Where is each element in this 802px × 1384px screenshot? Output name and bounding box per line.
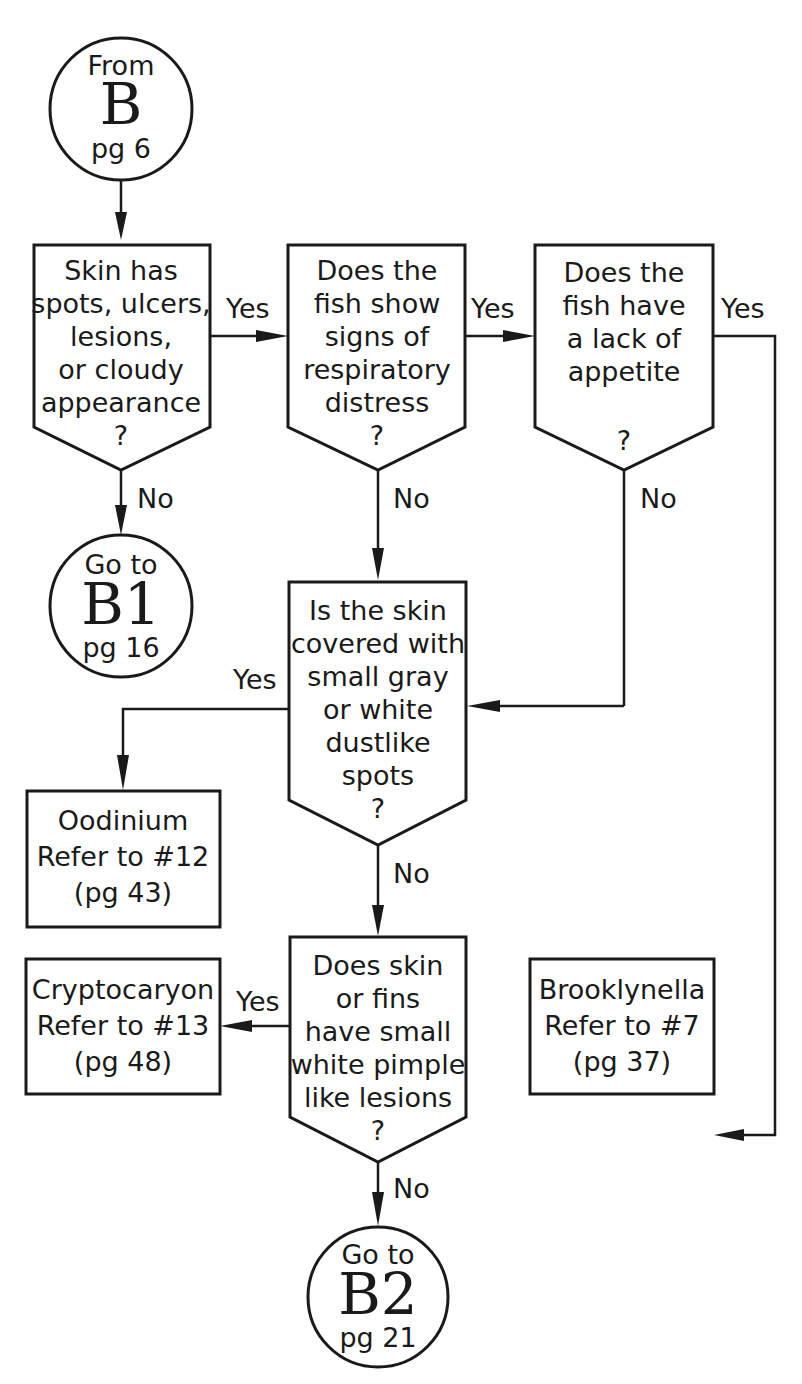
q2-yes-label: Yes: [470, 293, 515, 324]
q4-line: covered with: [291, 628, 465, 659]
q4-line: small gray: [307, 661, 448, 692]
q2-line: fish show: [314, 288, 441, 319]
arrow-left-icon: [467, 700, 500, 712]
start-code: B: [100, 70, 143, 138]
q4-line: Is the skin: [309, 595, 447, 626]
q5-no-label: No: [393, 1173, 430, 1204]
brooklynella-line: Refer to #7: [544, 1010, 699, 1041]
b2-page: pg 21: [339, 1322, 416, 1353]
cryptocaryon-line: Refer to #13: [37, 1010, 210, 1041]
arrow-down-icon: [372, 1192, 384, 1226]
q5-line: like lesions: [304, 1082, 452, 1113]
q1-yes-label: Yes: [225, 293, 270, 324]
arrow-down-icon: [117, 755, 129, 790]
q5-yes-label: Yes: [235, 986, 280, 1017]
q3-line: a lack of: [567, 323, 683, 354]
q5-line: or fins: [336, 983, 420, 1014]
cryptocaryon-line: (pg 48): [74, 1046, 172, 1077]
decision-skin-spots: Skin has spots, ulcers, lesions, or clou…: [31, 245, 210, 470]
start-connector-b: From B pg 6: [50, 38, 192, 180]
cryptocaryon-line: Cryptocaryon: [32, 974, 214, 1005]
q2-line: ?: [370, 420, 384, 451]
q5-line: white pimple: [291, 1049, 466, 1080]
decision-pimple-lesions: Does skin or fins have small white pimpl…: [290, 937, 466, 1162]
q1-line: ?: [114, 420, 128, 451]
result-oodinium: Oodinium Refer to #12 (pg 43): [27, 791, 220, 927]
q4-yes-label: Yes: [232, 664, 277, 695]
q2-line: distress: [325, 387, 430, 418]
q2-line: signs of: [325, 321, 431, 352]
arrow-right-icon: [256, 330, 288, 342]
q4-line: dustlike: [325, 727, 430, 758]
q4-line: or white: [323, 694, 433, 725]
goto-connector-b1: Go to B1 pg 16: [50, 535, 192, 677]
q3-no-label: No: [640, 483, 677, 514]
decision-dustlike-spots: Is the skin covered with small gray or w…: [289, 582, 466, 845]
q1-line: appearance: [41, 387, 201, 418]
arrow-right-icon: [503, 330, 535, 342]
q2-line: Does the: [317, 255, 438, 286]
result-brooklynella: Brooklynella Refer to #7 (pg 37): [530, 959, 714, 1094]
start-page: pg 6: [91, 133, 151, 164]
q3-yes-label: Yes: [720, 293, 765, 324]
oodinium-line: (pg 43): [74, 877, 172, 908]
arrow-down-icon: [372, 905, 384, 936]
arrow-left-icon: [714, 1129, 744, 1141]
q2-line: respiratory: [303, 354, 451, 385]
b2-code: B2: [338, 1260, 418, 1328]
decision-respiratory-distress: Does the fish show signs of respiratory …: [288, 245, 465, 470]
arrow-down-icon: [372, 548, 384, 580]
q4-no-label: No: [393, 858, 430, 889]
q3-line: Does the: [564, 257, 685, 288]
b1-code: B1: [81, 570, 161, 638]
q3-line: fish have: [562, 290, 685, 321]
q1-no-label: No: [137, 483, 174, 514]
q4-line: ?: [371, 793, 385, 824]
oodinium-line: Refer to #12: [37, 841, 210, 872]
oodinium-line: Oodinium: [58, 805, 188, 836]
arrow-down-icon: [115, 212, 127, 240]
q5-line: have small: [305, 1016, 452, 1047]
q5-line: ?: [371, 1115, 385, 1146]
q1-line: spots, ulcers,: [31, 288, 210, 319]
result-cryptocaryon: Cryptocaryon Refer to #13 (pg 48): [26, 959, 220, 1094]
arrow-down-icon: [115, 505, 127, 535]
brooklynella-line: (pg 37): [573, 1046, 671, 1077]
q3-line: ?: [617, 425, 631, 456]
brooklynella-line: Brooklynella: [539, 974, 705, 1005]
q3-line: appetite: [568, 356, 681, 387]
q5-line: Does skin: [313, 950, 444, 981]
q1-line: Skin has: [64, 255, 178, 286]
q1-line: lesions,: [70, 321, 172, 352]
q4-line: spots: [342, 760, 414, 791]
goto-connector-b2: Go to B2 pg 21: [308, 1227, 448, 1367]
decision-lack-of-appetite: Does the fish have a lack of appetite ?: [535, 245, 713, 470]
q1-line: or cloudy: [58, 354, 183, 385]
b1-page: pg 16: [82, 632, 159, 663]
q2-no-label: No: [393, 483, 430, 514]
arrow-left-icon: [220, 1020, 252, 1032]
